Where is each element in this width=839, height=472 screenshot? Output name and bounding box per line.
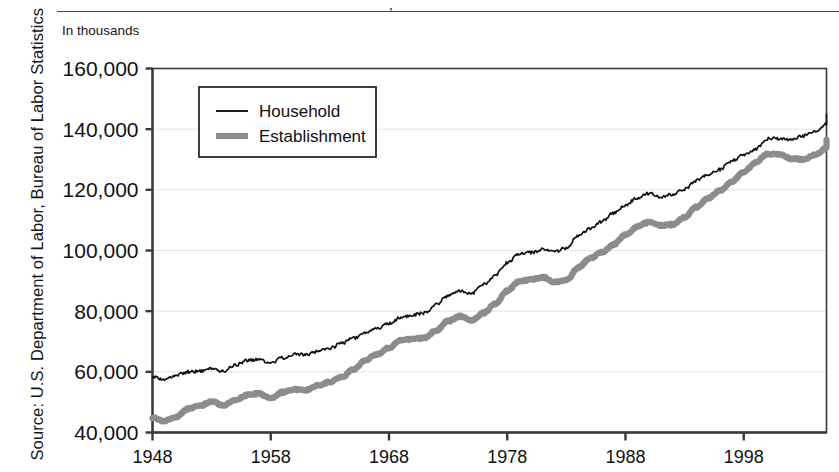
y-axis-ticks: 40,00060,00080,000100,000120,000140,0001… bbox=[63, 57, 153, 444]
data-series bbox=[153, 114, 827, 421]
y-tick-label: 60,000 bbox=[74, 360, 138, 383]
y-tick-label: 160,000 bbox=[63, 57, 139, 80]
y-tick-label: 120,000 bbox=[63, 178, 139, 201]
x-tick-label: 1958 bbox=[251, 447, 291, 467]
chart-plot-area: 40,00060,00080,000100,000120,000140,0001… bbox=[0, 0, 839, 472]
y-tick-label: 100,000 bbox=[63, 239, 139, 262]
x-tick-label: 1948 bbox=[132, 447, 172, 467]
y-tick-label: 40,000 bbox=[74, 421, 138, 444]
x-tick-label: 1988 bbox=[605, 447, 645, 467]
y-tick-label: 80,000 bbox=[74, 300, 138, 323]
x-tick-label: 1968 bbox=[369, 447, 409, 467]
legend-box bbox=[199, 87, 376, 157]
chart-legend: HouseholdEstablishment bbox=[199, 87, 376, 157]
x-tick-label: 1998 bbox=[724, 447, 764, 467]
employment-chart-figure: , Source: U.S. Department of Labor, Bure… bbox=[0, 0, 839, 472]
legend-label-household: Household bbox=[259, 102, 340, 121]
legend-label-establishment: Establishment bbox=[259, 127, 366, 146]
x-axis-ticks: 194819581968197819881998 bbox=[132, 433, 763, 467]
x-tick-label: 1978 bbox=[487, 447, 527, 467]
y-tick-label: 140,000 bbox=[63, 118, 139, 141]
